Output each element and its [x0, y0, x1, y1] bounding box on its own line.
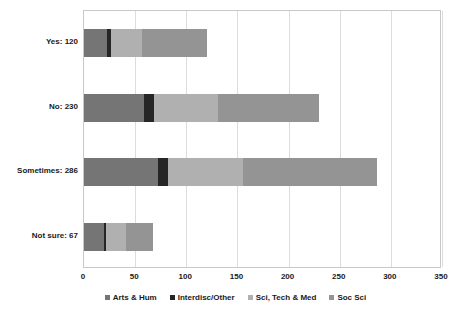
stacked-bar-chart: Yes: 120No: 230Sometimes: 286Not sure: 6… — [0, 0, 471, 318]
legend-label: Interdisc/Other — [178, 293, 235, 302]
bar-segment — [144, 94, 153, 122]
x-axis-tick-label: 100 — [179, 272, 192, 281]
bar-segment — [218, 94, 319, 122]
y-axis-label: No: 230 — [0, 102, 78, 111]
chart-legend: Arts & HumInterdisc/OtherSci, Tech & Med… — [0, 293, 471, 302]
bar-segment — [84, 94, 144, 122]
legend-swatch-icon — [329, 295, 334, 300]
legend-item[interactable]: Interdisc/Other — [170, 293, 235, 302]
bar-segment — [126, 223, 153, 251]
bar-row — [84, 223, 153, 251]
legend-label: Arts & Hum — [113, 293, 157, 302]
gridline-350 — [442, 11, 443, 267]
legend-item[interactable]: Sci, Tech & Med — [248, 293, 317, 302]
gridline-300 — [391, 11, 392, 267]
legend-swatch-icon — [170, 295, 175, 300]
legend-item[interactable]: Arts & Hum — [105, 293, 157, 302]
x-axis-tick-label: 250 — [332, 272, 345, 281]
legend-swatch-icon — [105, 295, 110, 300]
bar-segment — [106, 223, 125, 251]
bar-segment — [168, 158, 243, 186]
bar-row — [84, 94, 319, 122]
x-axis-tick-label: 200 — [281, 272, 294, 281]
y-axis-label: Yes: 120 — [0, 37, 78, 46]
bar-segment — [243, 158, 377, 186]
x-axis-tick-label: 50 — [130, 272, 139, 281]
y-axis-label: Not sure: 67 — [0, 231, 78, 240]
bar-segment — [84, 158, 158, 186]
bar-segment — [111, 29, 143, 57]
x-axis-tick-label: 300 — [383, 272, 396, 281]
legend-swatch-icon — [248, 295, 253, 300]
gridline-200 — [289, 11, 290, 267]
x-axis-tick-label: 150 — [230, 272, 243, 281]
y-axis-label: Sometimes: 286 — [0, 166, 78, 175]
legend-label: Soc Sci — [337, 293, 366, 302]
bar-segment — [154, 94, 218, 122]
x-axis-tick-label: 0 — [81, 272, 85, 281]
bar-row — [84, 158, 377, 186]
bar-segment — [158, 158, 168, 186]
x-axis-tick-label: 350 — [434, 272, 447, 281]
bar-row — [84, 29, 207, 57]
plot-area — [83, 10, 441, 268]
bar-segment — [84, 29, 107, 57]
gridline-250 — [340, 11, 341, 267]
legend-label: Sci, Tech & Med — [256, 293, 317, 302]
gridline-150 — [237, 11, 238, 267]
legend-item[interactable]: Soc Sci — [329, 293, 366, 302]
bar-segment — [84, 223, 104, 251]
bar-segment — [142, 29, 206, 57]
